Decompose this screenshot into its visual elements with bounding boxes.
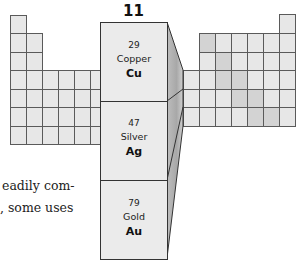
element-symbol: Cu — [101, 67, 167, 80]
body-text-line-1: eadily com- — [2, 178, 75, 193]
atomic-number: 29 — [101, 40, 167, 50]
element-box-gold: 79 Gold Au — [100, 180, 168, 260]
element-name: Gold — [101, 211, 167, 222]
element-name: Silver — [101, 131, 167, 142]
atomic-number: 79 — [101, 198, 167, 208]
element-box-silver: 47 Silver Ag — [100, 101, 168, 181]
element-name: Copper — [101, 53, 167, 64]
body-text-line-2: , some uses — [0, 200, 73, 215]
element-box-copper: 29 Copper Cu — [100, 22, 168, 102]
atomic-number: 47 — [101, 118, 167, 128]
element-symbol: Au — [101, 225, 167, 238]
element-symbol: Ag — [101, 145, 167, 158]
group-number-label: 11 — [100, 2, 167, 20]
